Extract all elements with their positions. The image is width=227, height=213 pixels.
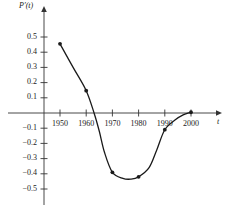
data-point-marker [58,42,62,46]
x-tick-label: 2000 [176,119,206,128]
y-tick-label: 0.4 [9,47,37,56]
y-axis-arrow-icon [41,6,47,12]
y-tick-label: 0.3 [9,62,37,71]
y-axis-label: P′(t) [19,1,33,10]
y-tick-label: −0.5 [9,184,37,193]
data-curve [60,44,191,179]
y-tick-label: −0.3 [9,153,37,162]
data-point-markers [58,42,193,179]
y-tick-label: 0.5 [9,32,37,41]
data-point-marker [84,89,88,93]
y-tick-label: 0.1 [9,92,37,101]
y-tick-label: −0.1 [9,123,37,132]
data-point-marker [189,110,193,114]
x-axis-arrow-icon [216,110,222,116]
y-tick-label: −0.2 [9,138,37,147]
chart-figure: P′(t) t 195019601970198019902000 0.50.40… [0,0,227,213]
x-axis-label: t [217,117,219,126]
data-point-marker [163,128,167,132]
data-point-marker [137,175,141,179]
y-tick-label: −0.4 [9,168,37,177]
data-point-marker [111,170,115,174]
y-tick-label: 0.2 [9,77,37,86]
